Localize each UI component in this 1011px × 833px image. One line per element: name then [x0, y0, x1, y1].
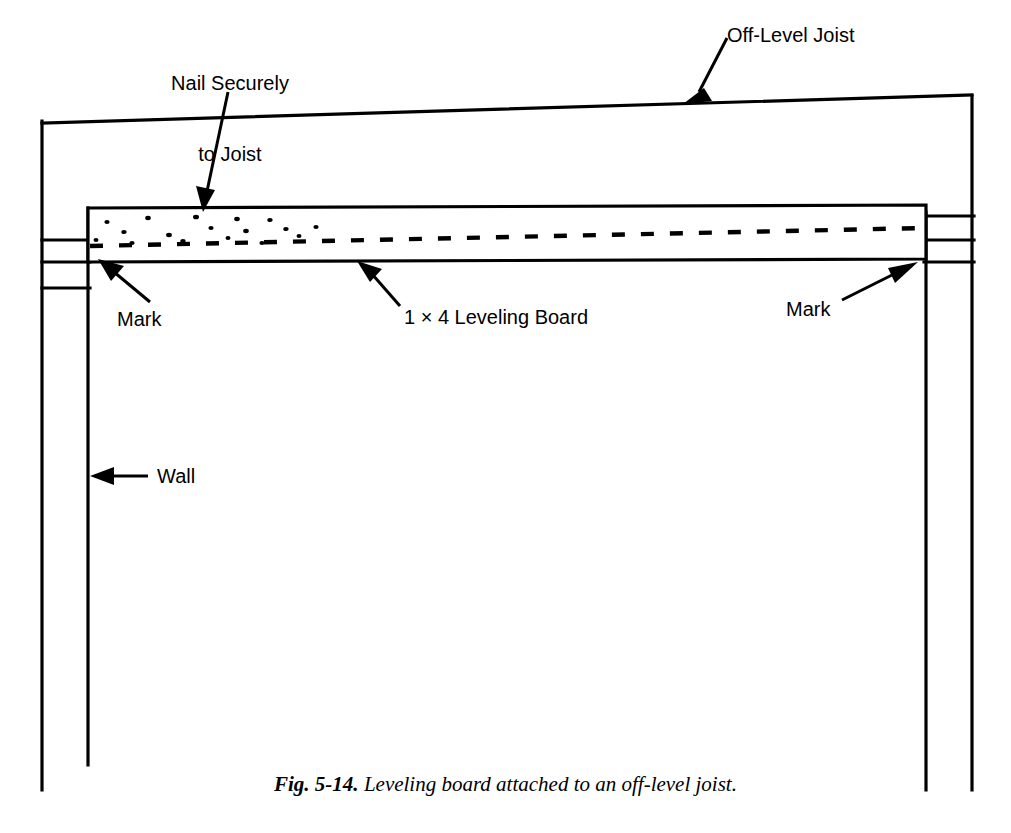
nail-securely-label: Nail Securely to Joist: [90, 25, 370, 214]
mark-right-label: Mark: [786, 298, 830, 322]
wall-leader-arrow: [90, 467, 148, 485]
leveling-board-leader-arrow: [357, 261, 400, 306]
leveling-board-label: 1 × 4 Leveling Board: [404, 306, 588, 330]
wall-label: Wall: [157, 465, 195, 489]
figure-caption-text: Leveling board attached to an off-level …: [359, 772, 737, 796]
right-wall-shape: [924, 96, 974, 790]
mark-left-label: Mark: [117, 308, 161, 332]
left-wall-shape: [42, 121, 90, 790]
nail-securely-label-line1: Nail Securely: [90, 72, 370, 96]
nail-securely-label-line2: to Joist: [90, 143, 370, 167]
mark-left-leader-arrow: [98, 259, 150, 302]
figure-container: Nail Securely to Joist Off-Level Joist 1…: [0, 0, 1011, 833]
mark-right-leader-arrow: [842, 262, 918, 300]
off-level-joist-label: Off-Level Joist: [727, 24, 854, 48]
off-level-joist-leader-arrow: [683, 38, 727, 104]
figure-number: Fig. 5-14.: [274, 772, 359, 796]
figure-caption: Fig. 5-14. Leveling board attached to an…: [0, 772, 1011, 797]
